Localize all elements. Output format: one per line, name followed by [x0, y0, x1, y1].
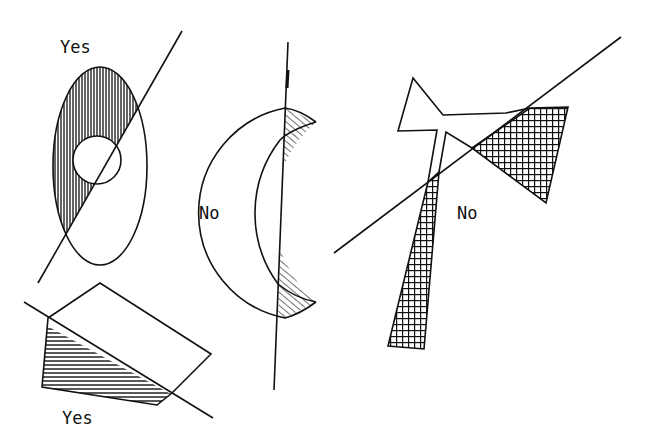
- label-no-bowtie: No: [457, 203, 477, 223]
- figure-bowtie: [334, 37, 621, 349]
- label-yes-ellipse: Yes: [60, 37, 91, 57]
- figure-ellipse-circle: [38, 31, 182, 283]
- figure-quadrilateral: [24, 283, 213, 418]
- diagram-canvas: Yes No Yes No: [0, 0, 648, 448]
- label-yes-quadrilateral: Yes: [62, 408, 93, 428]
- diagram-svg: [0, 0, 648, 448]
- label-no-crescent: No: [199, 203, 219, 223]
